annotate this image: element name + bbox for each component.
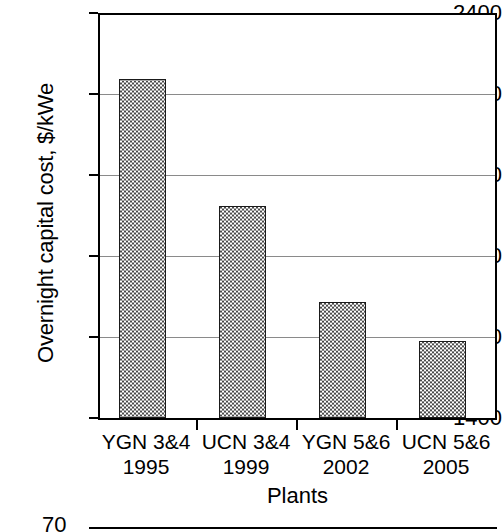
bar-ygn-5-6 <box>319 302 366 418</box>
y-tick-mark-2400 <box>89 12 98 14</box>
x-category-name: UCN 3&4 <box>196 429 296 454</box>
bar-ucn-3-4 <box>219 206 266 418</box>
next-figure-y-tick-mark <box>89 527 98 529</box>
y-tick-mark-1400 <box>89 417 98 419</box>
x-category-year: 1999 <box>196 454 296 479</box>
y-axis-title: Overnight capital cost, $/kWe <box>33 23 59 423</box>
x-category-name: YGN 3&4 <box>96 429 196 454</box>
plot-area <box>98 13 497 420</box>
x-axis-title: Plants <box>98 483 497 509</box>
y-tick-mark-1800 <box>89 255 98 257</box>
x-category-year: 1995 <box>96 454 196 479</box>
x-category-ygn-3-4: YGN 3&4 1995 <box>96 429 196 479</box>
x-category-ucn-5-6: UCN 5&6 2005 <box>396 429 496 479</box>
x-category-year: 2005 <box>396 454 496 479</box>
next-figure-top-axis-line <box>98 527 497 529</box>
bar-ucn-5-6 <box>419 341 466 418</box>
next-figure-y-tick-label: 70 <box>42 514 66 532</box>
y-tick-mark-2200 <box>89 93 98 95</box>
y-tick-mark-2000 <box>89 174 98 176</box>
bar-ygn-3-4 <box>119 79 166 418</box>
y-tick-mark-1600 <box>89 336 98 338</box>
overnight-capital-cost-bar-chart: Overnight capital cost, $/kWe 2400 2200 … <box>0 0 502 532</box>
x-category-year: 2002 <box>296 454 396 479</box>
x-category-name: UCN 5&6 <box>396 429 496 454</box>
x-category-ygn-5-6: YGN 5&6 2002 <box>296 429 396 479</box>
x-category-ucn-3-4: UCN 3&4 1999 <box>196 429 296 479</box>
x-category-name: YGN 5&6 <box>296 429 396 454</box>
